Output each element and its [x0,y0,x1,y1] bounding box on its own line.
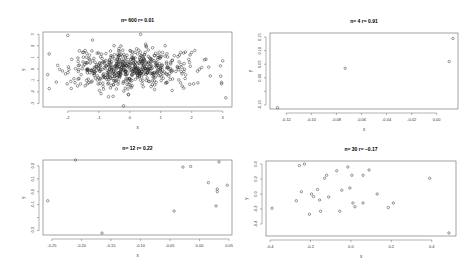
svg-text:0.4: 0.4 [429,244,435,249]
svg-text:-0.20: -0.20 [77,243,87,248]
plot-frame [43,160,232,235]
svg-text:1: 1 [160,115,163,120]
svg-text:0.4: 0.4 [253,160,258,166]
y-axis-label: y [248,69,253,72]
svg-text:0.2: 0.2 [253,175,258,181]
x-axis: -2-10123 [66,111,225,120]
svg-text:2: 2 [191,115,194,120]
svg-text:1: 1 [30,56,35,59]
y-axis: -3-2-10123 [30,32,39,105]
svg-text:-0.10: -0.10 [136,243,146,248]
svg-text:3: 3 [222,115,225,120]
svg-text:0.1: 0.1 [30,175,35,181]
svg-text:-0.06: -0.06 [357,117,367,122]
scatter-plot: n= 12 r= 0.22-0.25-0.20-0.15-0.10-0.050.… [0,136,237,272]
svg-text:-3: -3 [30,101,35,105]
x-axis: -0.4-0.20.00.20.4 [267,240,436,249]
svg-text:-0.15: -0.15 [106,243,116,248]
y-axis: -0.4-0.20.00.20.4 [253,160,262,227]
svg-text:-0.2: -0.2 [307,244,315,249]
x-axis: -0.12-0.10-0.08-0.06-0.04-0.020.00 [282,113,442,122]
svg-text:0.00: 0.00 [257,73,262,82]
scatter-panel-n4: n= 4 r= 0.91-0.12-0.10-0.08-0.06-0.04-0.… [237,0,474,136]
chart-title: n= 30 r= −0.17 [344,146,377,152]
svg-text:2: 2 [30,44,35,47]
svg-text:0.00: 0.00 [433,117,442,122]
x-axis-label: x [136,125,139,130]
svg-text:-0.10: -0.10 [307,117,317,122]
scatter-plot: n= 600 r= 0.01-2-10123x-3-2-10123y [0,0,237,136]
svg-text:-0.2: -0.2 [253,205,258,213]
chart-title: n= 12 r= 0.22 [122,145,153,151]
y-axis: -0.3-0.10.00.10.2 [30,162,39,234]
svg-text:0.15: 0.15 [257,32,262,41]
svg-text:-0.12: -0.12 [282,117,292,122]
scatter-panel-n12: n= 12 r= 0.22-0.25-0.20-0.15-0.10-0.050.… [0,136,237,272]
plot-frame [270,33,458,109]
svg-text:0.2: 0.2 [30,162,35,168]
data-points [276,37,454,109]
svg-text:0.0: 0.0 [253,190,258,196]
svg-text:-0.1: -0.1 [30,200,35,208]
chart-title: n= 4 r= 0.91 [350,18,378,24]
svg-text:0.2: 0.2 [389,244,395,249]
y-axis-label: y [21,196,26,199]
svg-text:0.00: 0.00 [196,243,205,248]
x-axis-label: x [363,127,366,132]
svg-text:-2: -2 [66,115,70,120]
svg-text:-1: -1 [97,115,101,120]
y-axis-label: y [244,197,249,200]
svg-text:-0.25: -0.25 [47,243,57,248]
svg-text:-0.02: -0.02 [407,117,417,122]
svg-text:0: 0 [30,67,35,70]
x-axis-label: x [360,254,363,259]
svg-text:0.0: 0.0 [30,188,35,194]
x-axis: -0.25-0.20-0.15-0.10-0.050.000.05 [47,239,233,248]
svg-text:-0.3: -0.3 [30,226,35,234]
svg-text:-1: -1 [30,78,35,82]
y-axis-label: y [21,68,26,71]
svg-text:-2: -2 [30,89,35,93]
svg-text:-0.4: -0.4 [267,244,275,249]
svg-text:0.05: 0.05 [225,243,234,248]
scatter-plot: n= 30 r= −0.17-0.4-0.20.00.20.4x-0.4-0.2… [237,136,474,272]
x-axis-label: x [136,253,139,258]
data-points [46,33,227,107]
svg-text:0.05: 0.05 [257,60,262,69]
data-points [271,163,450,234]
svg-text:-0.05: -0.05 [165,243,175,248]
data-points [47,159,229,234]
svg-text:-0.08: -0.08 [332,117,342,122]
svg-text:0.10: 0.10 [257,46,262,55]
scatter-plot: n= 4 r= 0.91-0.12-0.10-0.08-0.06-0.04-0.… [237,0,474,136]
y-axis: -0.100.000.050.100.15 [257,32,266,109]
svg-text:0: 0 [129,115,132,120]
svg-text:-0.04: -0.04 [382,117,392,122]
scatter-panel-n30: n= 30 r= −0.17-0.4-0.20.00.20.4x-0.4-0.2… [237,136,474,272]
svg-text:-0.10: -0.10 [257,100,262,110]
svg-text:3: 3 [30,32,35,35]
plot-frame [266,161,456,236]
chart-title: n= 600 r= 0.01 [121,17,154,23]
scatter-panel-n600: n= 600 r= 0.01-2-10123x-3-2-10123y [0,0,237,136]
svg-text:0.0: 0.0 [348,244,354,249]
svg-text:-0.4: -0.4 [253,220,258,228]
